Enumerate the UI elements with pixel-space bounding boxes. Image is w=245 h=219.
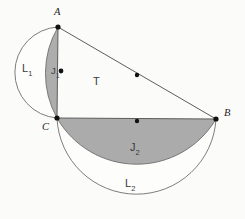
vertex-label-C: C [42, 122, 49, 133]
outer-lune-regions [15, 27, 216, 194]
region-label-J1: J1 [51, 66, 60, 78]
region-label-J1-subscript: 1 [56, 72, 60, 79]
region-label-L1-subscript: 1 [28, 69, 32, 78]
region-label-L1: L1 [22, 63, 32, 77]
midpoint-dot-cb [135, 119, 139, 123]
region-label-L2: L2 [125, 178, 135, 192]
region-label-L2-subscript: 2 [131, 184, 135, 193]
midpoint-dot-ab [135, 73, 139, 77]
region-label-J2: J2 [130, 142, 140, 156]
point-B [213, 116, 218, 121]
region-label-J2-subscript: 2 [136, 148, 140, 157]
geometry-figure: A B C L1 J1 T J2 L2 [0, 0, 245, 219]
point-A [55, 24, 60, 29]
figure-canvas [0, 0, 245, 219]
region-label-J2-text: J [130, 141, 136, 153]
region-label-T: T [93, 76, 100, 90]
point-C [54, 115, 59, 120]
vertex-label-A: A [54, 7, 60, 18]
region-label-T-text: T [93, 75, 100, 87]
vertex-label-B: B [224, 108, 230, 119]
